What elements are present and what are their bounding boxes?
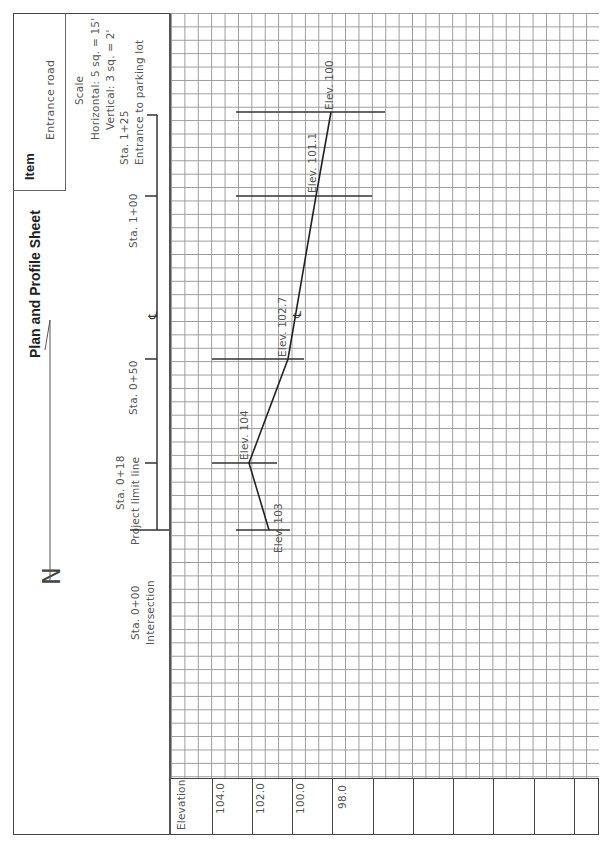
elev-label-102-7: Elev. 102.7 — [276, 297, 288, 357]
elevation-table — [169, 778, 599, 835]
elevation-value: 98.0 — [336, 785, 348, 809]
elev-label-100: Elev. 100 — [323, 60, 335, 110]
centerline-symbol-profile: ℄ — [291, 311, 304, 318]
elev-label-101-1: Elev. 101.1 — [306, 133, 318, 193]
elev-label-104: Elev. 104 — [238, 410, 250, 460]
elevation-header: Elevation — [175, 779, 187, 830]
profile-drawing — [0, 0, 613, 851]
elevation-value: 100.0 — [294, 783, 306, 814]
elev-label-103: Elev. 103 — [272, 503, 284, 553]
profile-line — [249, 112, 331, 530]
elevation-value: 102.0 — [254, 783, 266, 814]
elevation-value: 104.0 — [214, 783, 226, 814]
